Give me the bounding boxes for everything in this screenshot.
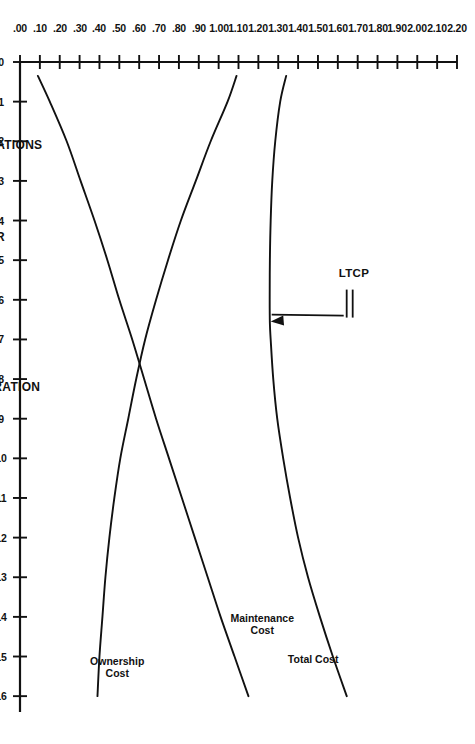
hours-axis-title-secondary: HOURS OF OPERATIONS bbox=[0, 138, 57, 152]
plot-area: .00.10.20.30.40.50.60.70.80.901.001.101.… bbox=[0, 0, 475, 744]
hours-tick-label: 14 bbox=[0, 609, 12, 625]
hours-tick-label: 15 bbox=[0, 649, 12, 665]
curve-label-ownership-cost: Ownership Cost bbox=[75, 657, 161, 681]
curve-maintenance-cost bbox=[38, 76, 249, 696]
hours-tick-label: 13 bbox=[0, 569, 12, 585]
ltcp-label: LTCP bbox=[327, 267, 381, 279]
hours-tick-label: 3 bbox=[0, 173, 12, 189]
hours-tick-label: 5 bbox=[0, 252, 12, 268]
curve-label-ownership-cost-line2: Cost bbox=[106, 667, 129, 679]
hours-tick-label: 11 bbox=[0, 490, 12, 506]
chart-figure: .00.10.20.30.40.50.60.70.80.901.001.101.… bbox=[0, 0, 475, 744]
hours-tick-label: 6 bbox=[0, 292, 12, 308]
hours-tick-label: 9 bbox=[0, 411, 12, 427]
cost-tick-label: 2.20 bbox=[435, 20, 475, 36]
hours-tick-label: 4 bbox=[0, 213, 12, 229]
curve-total-cost bbox=[270, 76, 347, 696]
hours-tick-label: 1 bbox=[0, 94, 12, 110]
curve-label-total-cost: Total Cost bbox=[273, 655, 353, 667]
curve-label-total-cost-text: Total Cost bbox=[288, 654, 339, 666]
curve-label-maintenance-cost: Maintenance Cost bbox=[220, 613, 306, 637]
curve-label-maintenance-cost-line2: Cost bbox=[251, 624, 274, 636]
hours-tick-label: 16 bbox=[0, 688, 12, 704]
ltcp-callout bbox=[271, 290, 353, 326]
hours-tick-label: 7 bbox=[0, 331, 12, 347]
hours-axis-title: HOURS OF OPERATION bbox=[0, 380, 54, 394]
curve-label-ownership-cost-line1: Ownership bbox=[90, 656, 144, 668]
ltcp-arrow-icon bbox=[271, 316, 284, 326]
hours-tick-label: 10 bbox=[0, 450, 12, 466]
cost-axis-title: COST PER HOUR bbox=[0, 230, 28, 244]
ltcp-leader-line bbox=[272, 315, 344, 316]
hours-tick-label: 0 bbox=[0, 54, 12, 70]
curve-label-maintenance-cost-line1: Maintenance bbox=[231, 612, 295, 624]
hours-tick-label: 12 bbox=[0, 530, 12, 546]
